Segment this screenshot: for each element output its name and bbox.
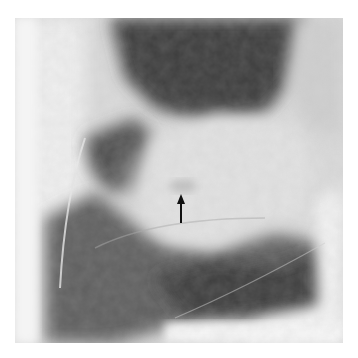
radiograph-image: [15, 18, 343, 343]
radiograph-svg: [15, 18, 343, 343]
